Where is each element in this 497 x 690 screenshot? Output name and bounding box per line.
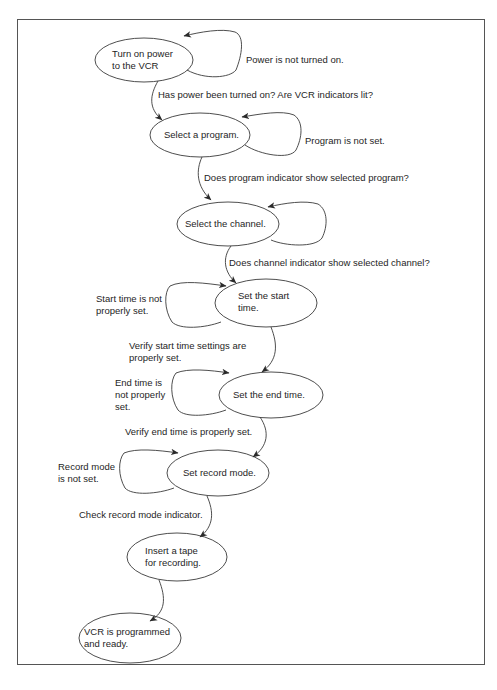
node-label-channel: Select the channel. (185, 218, 266, 230)
loop-start-time (166, 283, 226, 328)
node-label-tape: Insert a tape for recording. (145, 545, 201, 569)
arrow-start-to-end (262, 327, 275, 372)
diagram-frame (18, 20, 485, 665)
loop-label-record: Record mode is not set. (58, 461, 115, 485)
loop-line: End time is (115, 377, 165, 389)
loop-line: set. (115, 401, 165, 413)
arrow-end-to-record (253, 417, 266, 457)
transition-line: Does program indicator show selected pro… (204, 172, 409, 184)
node-line: for recording. (145, 557, 201, 569)
node-line: Insert a tape (145, 545, 201, 557)
node-label-program: Select a program. (164, 129, 239, 141)
loop-label-end: End time is not properly set. (115, 377, 165, 413)
node-label-start: Set the start time. (238, 290, 289, 314)
transition-line: properly set. (129, 352, 246, 364)
node-line: time. (238, 302, 289, 314)
node-line: Set the end time. (233, 389, 305, 401)
loop-line: not properly (115, 389, 165, 401)
node-label-power: Turn on power to the VCR (112, 48, 173, 72)
diagram-graphics (0, 0, 497, 690)
loop-label-program: Program is not set. (305, 135, 385, 147)
transition-line: Verify end time is properly set. (125, 426, 252, 438)
loop-line: Power is not turned on. (246, 54, 344, 66)
loop-line: properly set. (96, 305, 162, 317)
loop-program (242, 113, 301, 156)
vcr-programming-state-diagram: Turn on power to the VCR Select a progra… (0, 0, 497, 690)
node-line: Select a program. (164, 129, 239, 141)
transition-line: Check record mode indicator. (79, 509, 203, 521)
arrow-tape-to-ready (150, 580, 163, 621)
loop-line: Start time is not (96, 293, 162, 305)
node-label-record: Set record mode. (183, 467, 256, 479)
transition-label-channel-start: Does channel indicator show selected cha… (229, 257, 430, 269)
node-line: Set record mode. (183, 467, 256, 479)
loop-line: Program is not set. (305, 135, 385, 147)
loop-line: Record mode (58, 461, 115, 473)
node-line: and ready. (84, 638, 170, 650)
node-label-end: Set the end time. (233, 389, 305, 401)
loop-label-start: Start time is not properly set. (96, 293, 162, 317)
transition-label-record-tape: Check record mode indicator. (79, 509, 203, 521)
loop-power (184, 30, 242, 76)
node-line: Select the channel. (185, 218, 266, 230)
loop-line: is not set. (58, 473, 115, 485)
node-line: VCR is programmed (84, 626, 170, 638)
transition-line: Has power been turned on? Are VCR indica… (158, 89, 373, 101)
node-label-ready: VCR is programmed and ready. (84, 626, 170, 650)
loop-end-time (172, 370, 229, 415)
transition-label-start-end: Verify start time settings are properly … (129, 340, 246, 364)
loop-channel (268, 202, 326, 245)
transition-label-program-channel: Does program indicator show selected pro… (204, 172, 409, 184)
node-line: Turn on power (112, 48, 173, 60)
node-line: Set the start (238, 290, 289, 302)
loop-label-power: Power is not turned on. (246, 54, 344, 66)
loop-record-mode (120, 450, 178, 493)
node-line: to the VCR (112, 60, 173, 72)
transition-line: Does channel indicator show selected cha… (229, 257, 430, 269)
transition-line: Verify start time settings are (129, 340, 246, 352)
transition-label-end-record: Verify end time is properly set. (125, 426, 252, 438)
transition-label-power-program: Has power been turned on? Are VCR indica… (158, 89, 373, 101)
